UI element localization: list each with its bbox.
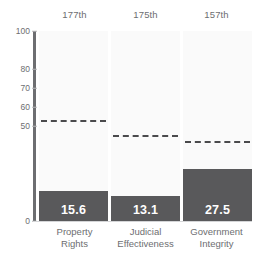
category-label-row: Property Rights Judicial Effectiveness G… — [39, 226, 252, 249]
y-tick-100: 100 — [0, 27, 30, 36]
bar-property-rights[interactable]: 15.6 — [39, 191, 108, 221]
bar-government-integrity[interactable]: 27.5 — [183, 169, 252, 221]
plot-area: 15.6 13.1 27.5 — [39, 31, 252, 221]
rank-label-property-rights: 177th — [39, 7, 110, 23]
rank-header-row: 177th 175th 157th — [39, 7, 252, 23]
category-label-judicial-effectiveness: Judicial Effectiveness — [110, 226, 181, 249]
category-label-government-integrity: Government Integrity — [181, 226, 252, 249]
bar-value-property-rights: 15.6 — [61, 203, 86, 221]
rank-label-judicial-effectiveness: 175th — [110, 7, 181, 23]
column-government-integrity: 27.5 — [183, 31, 252, 221]
bar-value-government-integrity: 27.5 — [205, 203, 230, 221]
column-judicial-effectiveness: 13.1 — [111, 31, 180, 221]
category-line-2: Effectiveness — [111, 238, 180, 250]
bar-judicial-effectiveness[interactable]: 13.1 — [111, 196, 180, 221]
reference-line-property-rights — [41, 120, 106, 122]
bar-chart: 177th 175th 157th 100 80 70 60 50 0 15.6… — [0, 0, 258, 258]
y-tick-70: 70 — [0, 84, 30, 93]
category-line-2: Integrity — [182, 238, 251, 250]
category-line-2: Rights — [40, 238, 109, 250]
category-line-1: Property — [40, 226, 109, 238]
y-tick-0: 0 — [0, 217, 30, 226]
rank-label-government-integrity: 157th — [181, 7, 252, 23]
reference-line-government-integrity — [185, 141, 250, 143]
reference-line-judicial-effectiveness — [113, 135, 178, 137]
y-tick-60: 60 — [0, 103, 30, 112]
bar-value-judicial-effectiveness: 13.1 — [133, 203, 158, 221]
x-axis-baseline — [33, 221, 252, 222]
y-tick-50: 50 — [0, 122, 30, 131]
column-property-rights: 15.6 — [39, 31, 108, 221]
category-line-1: Government — [182, 226, 251, 238]
y-tick-80: 80 — [0, 65, 30, 74]
category-line-1: Judicial — [111, 226, 180, 238]
category-label-property-rights: Property Rights — [39, 226, 110, 249]
